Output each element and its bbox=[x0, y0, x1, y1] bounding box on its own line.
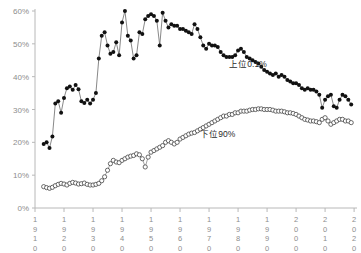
data-point bbox=[155, 19, 159, 23]
data-point bbox=[193, 22, 197, 26]
data-point bbox=[129, 39, 133, 43]
data-point bbox=[320, 106, 324, 110]
data-point bbox=[175, 24, 179, 28]
data-point bbox=[88, 102, 92, 106]
x-tick-label: 0 bbox=[62, 244, 66, 253]
x-tick-label: 6 bbox=[178, 234, 182, 243]
data-point bbox=[166, 25, 170, 29]
x-tick-label: 8 bbox=[236, 234, 240, 243]
x-tick-label: 0 bbox=[33, 244, 37, 253]
data-point bbox=[82, 101, 86, 105]
x-tick-label: 9 bbox=[149, 225, 153, 234]
data-point bbox=[85, 98, 89, 102]
y-tick-label: 0% bbox=[17, 204, 29, 213]
data-point bbox=[219, 50, 223, 54]
data-point bbox=[158, 43, 162, 47]
x-tick-label: 3 bbox=[91, 234, 95, 243]
x-tick-label: 2 bbox=[352, 234, 356, 243]
data-series-group bbox=[42, 9, 354, 190]
x-tick-label: 1 bbox=[236, 215, 240, 224]
data-point bbox=[164, 19, 168, 23]
x-tick-label: 9 bbox=[33, 225, 37, 234]
data-point bbox=[114, 40, 118, 44]
chart-container: 0%10%20%30%40%50%60% 1910192019301940195… bbox=[0, 0, 361, 253]
data-point bbox=[338, 98, 342, 102]
data-point bbox=[137, 153, 141, 157]
data-point bbox=[140, 157, 144, 161]
x-tick-label: 9 bbox=[207, 225, 211, 234]
data-point bbox=[140, 32, 144, 36]
x-tick-label: 0 bbox=[207, 244, 211, 253]
data-point bbox=[343, 94, 347, 98]
x-tick-label: 0 bbox=[323, 225, 327, 234]
y-tick-label: 40% bbox=[13, 73, 29, 82]
x-tick-label: 7 bbox=[207, 234, 211, 243]
data-point bbox=[317, 93, 321, 97]
x-tick-label: 1 bbox=[207, 215, 211, 224]
data-point bbox=[146, 155, 150, 159]
data-point bbox=[161, 11, 165, 15]
x-tick-label: 0 bbox=[120, 244, 124, 253]
data-point bbox=[97, 57, 101, 61]
x-tick-label: 0 bbox=[294, 225, 298, 234]
x-tick-label: 0 bbox=[91, 244, 95, 253]
data-point bbox=[62, 96, 66, 100]
y-tick-label: 50% bbox=[13, 40, 29, 49]
x-tick-label: 9 bbox=[265, 234, 269, 243]
x-tick-label: 1 bbox=[33, 234, 37, 243]
data-point bbox=[135, 53, 139, 57]
data-point bbox=[100, 34, 104, 38]
x-tick-label: 9 bbox=[236, 225, 240, 234]
data-point bbox=[335, 106, 339, 110]
data-point bbox=[143, 17, 147, 21]
annotation-group: 上位0.1%下位90% bbox=[200, 59, 267, 140]
x-tick-label: 1 bbox=[149, 215, 153, 224]
data-point bbox=[71, 88, 75, 92]
line-chart: 0%10%20%30%40%50%60% 1910192019301940195… bbox=[0, 0, 361, 253]
data-point bbox=[100, 179, 104, 183]
x-tick-label: 2 bbox=[294, 215, 298, 224]
x-tick-label: 1 bbox=[62, 215, 66, 224]
data-point bbox=[50, 134, 54, 138]
x-tick-label: 9 bbox=[120, 225, 124, 234]
bottom-series-label: 下位90% bbox=[200, 129, 235, 139]
x-tick-label: 0 bbox=[236, 244, 240, 253]
data-point bbox=[201, 43, 205, 47]
data-point bbox=[297, 83, 301, 87]
x-tick-label: 0 bbox=[149, 244, 153, 253]
x-tick-label: 2 bbox=[323, 215, 327, 224]
x-tick-label: 1 bbox=[178, 215, 182, 224]
x-tick-label: 0 bbox=[352, 244, 356, 253]
data-point bbox=[233, 53, 237, 57]
data-point bbox=[329, 93, 333, 97]
x-tick-label: 0 bbox=[178, 244, 182, 253]
top-series-label: 上位0.1% bbox=[229, 59, 267, 69]
data-point bbox=[103, 175, 107, 179]
x-tick-label: 5 bbox=[149, 234, 153, 243]
x-tick-label: 1 bbox=[265, 215, 269, 224]
data-point bbox=[59, 111, 63, 115]
data-point bbox=[91, 98, 95, 102]
y-tick-label: 60% bbox=[13, 7, 29, 16]
series-bottom bbox=[42, 107, 354, 191]
data-point bbox=[77, 87, 81, 91]
data-point bbox=[349, 103, 353, 107]
data-point bbox=[68, 85, 72, 89]
data-point bbox=[242, 50, 246, 54]
data-point bbox=[143, 165, 147, 169]
data-point bbox=[349, 121, 353, 125]
series-path bbox=[44, 11, 352, 148]
x-tick-label: 9 bbox=[265, 225, 269, 234]
y-tick-label: 10% bbox=[13, 171, 29, 180]
data-point bbox=[123, 9, 127, 13]
data-point bbox=[314, 89, 318, 93]
data-point bbox=[103, 30, 107, 34]
x-tick-label: 0 bbox=[265, 244, 269, 253]
data-point bbox=[132, 57, 136, 61]
data-point bbox=[323, 98, 327, 102]
data-point bbox=[152, 14, 156, 18]
data-point bbox=[56, 99, 60, 103]
data-point bbox=[239, 47, 243, 51]
x-tick-label: 1 bbox=[33, 215, 37, 224]
y-tick-label: 30% bbox=[13, 106, 29, 115]
